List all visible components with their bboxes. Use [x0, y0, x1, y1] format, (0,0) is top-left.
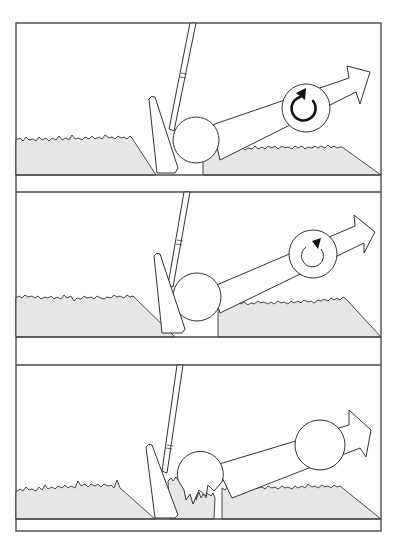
panel-1 [16, 23, 381, 175]
grass-band [16, 480, 155, 519]
club-shaft [169, 23, 196, 131]
grass-band [16, 135, 156, 175]
club-shaft [168, 192, 190, 287]
golf-ball [173, 117, 219, 163]
panel-2 [16, 192, 381, 337]
grass-band [16, 295, 175, 337]
golf-spin-illustration [0, 0, 395, 549]
spin-indicator [282, 84, 330, 132]
panel-3 [16, 365, 381, 519]
grass-band-right [218, 297, 381, 337]
illustration-canvas [0, 0, 395, 549]
spin-indicator [289, 230, 337, 278]
club-shaft [162, 365, 183, 473]
golf-ball-in-flight [295, 420, 345, 470]
flight-arrow [216, 410, 371, 498]
